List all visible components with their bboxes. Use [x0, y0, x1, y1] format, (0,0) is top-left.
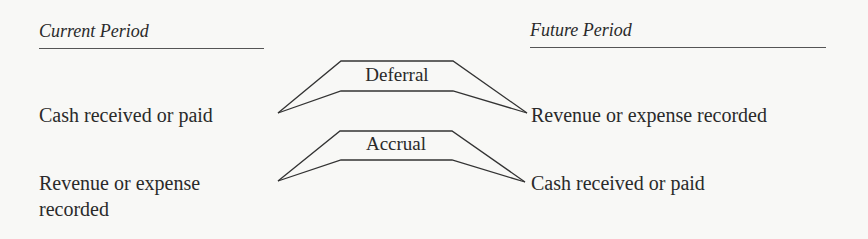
accrual-label: Accrual — [340, 133, 452, 155]
deferral-label: Deferral — [341, 64, 453, 86]
accrual-current-text-line2: recorded — [39, 197, 109, 222]
accrual-current-text-line1: Revenue or expense — [39, 171, 200, 196]
accrual-future-text: Cash received or paid — [531, 171, 705, 196]
deferral-future-text: Revenue or expense recorded — [531, 103, 767, 128]
deferral-current-text: Cash received or paid — [39, 103, 213, 128]
